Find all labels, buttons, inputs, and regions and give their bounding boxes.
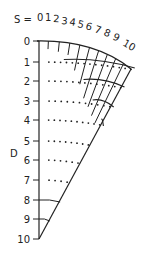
s-tick-label: 4 [69, 16, 77, 28]
dotted-row-point [54, 61, 56, 63]
dotted-row-point [85, 102, 87, 104]
dotted-row-point [79, 102, 81, 104]
dotted-row-point [60, 61, 62, 63]
s-spoke-line [68, 43, 70, 55]
dotted-row-point [87, 122, 89, 124]
sector-grid [33, 41, 135, 239]
s-tick-label: 0 [37, 12, 43, 23]
dotted-row-point [54, 100, 56, 102]
dotted-row-point [65, 160, 67, 162]
s-tick-label: 8 [102, 27, 112, 40]
dotted-row-point [66, 181, 68, 183]
dotted-row-point [54, 159, 56, 161]
dotted-row-point [60, 180, 62, 182]
solid-row-line [39, 219, 50, 221]
dotted-row-point [48, 119, 50, 121]
d-tick-label: 3 [24, 96, 30, 107]
dotted-row-point [89, 63, 91, 65]
sector-diagram: 012345678910S =012345678910D [0, 0, 160, 259]
dotted-row-point [48, 159, 50, 161]
dotted-row-point [48, 140, 50, 142]
solid-row-line [39, 200, 60, 202]
dotted-row-point [91, 103, 93, 105]
dotted-row-point [70, 120, 72, 122]
dotted-row-point [48, 61, 50, 63]
dotted-row-point [65, 120, 67, 122]
dotted-row-point [84, 82, 86, 84]
d-tick-label: 5 [24, 136, 30, 147]
dotted-row-point [48, 100, 50, 102]
d-tick-label: 2 [24, 76, 30, 87]
dotted-row-point [114, 86, 116, 88]
dotted-row-point [78, 81, 80, 83]
d-tick-label: 9 [24, 214, 30, 225]
dotted-row-point [59, 141, 61, 143]
d-tick-label: 0 [24, 36, 30, 47]
dotted-row-point [72, 81, 74, 83]
dotted-row-point [87, 144, 89, 146]
dotted-row-point [60, 101, 62, 103]
dotted-row-point [60, 160, 62, 162]
s-axis-label: S = [14, 14, 32, 25]
s-tick-label: 10 [121, 37, 138, 53]
top-arc [37, 41, 131, 69]
dotted-row-point [54, 180, 56, 182]
dotted-row-point [53, 119, 55, 121]
dotted-row-point [65, 141, 67, 143]
dotted-row-point [76, 142, 78, 144]
s-tick-label: 9 [111, 31, 122, 44]
s-tick-label: 1 [45, 12, 51, 23]
s-tick-label: 6 [84, 20, 93, 32]
dotted-row-point [107, 65, 109, 67]
dotted-row-point [76, 121, 78, 123]
dotted-row-point [93, 123, 95, 125]
dotted-row-point [59, 120, 61, 122]
dotted-row-point [71, 62, 73, 64]
s-spoke-line [75, 45, 80, 70]
d-tick-label: 8 [24, 195, 30, 206]
d-tick-label: 1 [24, 57, 30, 68]
s-tick-label: 5 [77, 18, 86, 30]
dotted-row-point [95, 64, 97, 66]
dotted-row-point [82, 143, 84, 145]
dotted-row-point [54, 80, 56, 82]
dotted-row-point [109, 106, 111, 108]
dotted-row-point [48, 80, 50, 82]
s-tick-label: 7 [93, 23, 102, 35]
dotted-row-point [90, 83, 92, 85]
s-spoke-line [95, 64, 124, 123]
dotted-row-point [118, 67, 120, 69]
dotted-row-point [82, 121, 84, 123]
dotted-row-point [77, 62, 79, 64]
dotted-row-point [124, 68, 126, 70]
dotted-row-point [108, 85, 110, 87]
d-tick-label: 4 [24, 115, 30, 126]
dotted-row-point [72, 101, 74, 103]
axis-labels: 012345678910S =012345678910D [10, 12, 138, 245]
dotted-row-point [71, 161, 73, 163]
d-tick-label: 6 [24, 155, 30, 166]
dotted-row-point [53, 140, 55, 142]
dotted-row-point [77, 162, 79, 164]
dotted-row-point [60, 80, 62, 82]
dotted-row-point [99, 124, 101, 126]
dotted-row-point [97, 104, 99, 106]
s-tick-label: 2 [53, 13, 60, 24]
dotted-row-point [66, 101, 68, 103]
dotted-row-point [70, 142, 72, 144]
s-spoke-line [58, 42, 59, 52]
dotted-row-point [101, 64, 103, 66]
d-tick-label: 10 [17, 234, 30, 245]
s-spoke-line [84, 51, 99, 99]
s-tick-label: 3 [61, 15, 68, 27]
dotted-row-point [48, 179, 50, 181]
dotted-row-point [130, 68, 132, 70]
d-tick-label: 7 [24, 175, 30, 186]
dotted-row-point [102, 84, 104, 86]
dotted-row-point [120, 87, 122, 89]
d-axis-label: D [10, 148, 18, 159]
dotted-row-point [66, 81, 68, 83]
dotted-row-point [66, 62, 68, 64]
